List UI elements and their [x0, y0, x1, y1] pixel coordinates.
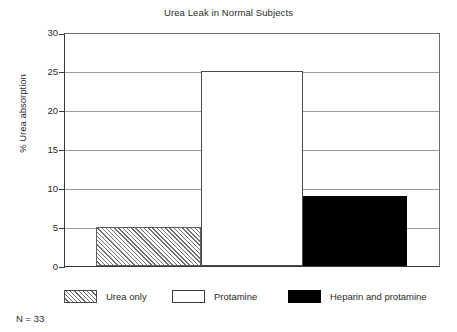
- legend-item-heparin-and-protamine: Heparin and protamine: [288, 287, 427, 305]
- legend-item-protamine: Protamine: [172, 287, 257, 305]
- y-tick-mark-30: [59, 34, 65, 35]
- chart-title: Urea Leak in Normal Subjects: [0, 7, 457, 18]
- legend-label-urea-only: Urea only: [106, 291, 147, 302]
- bar-urea-only: [96, 227, 201, 266]
- y-axis-title: % Urea absorption: [17, 44, 28, 184]
- y-tick-label-30: 30: [12, 28, 58, 38]
- legend-label-protamine: Protamine: [214, 291, 257, 302]
- bar-protamine: [201, 71, 303, 266]
- chart-legend: Urea only Protamine Heparin and protamin…: [0, 287, 457, 307]
- y-tick-label-10: 10: [12, 184, 58, 194]
- y-tick-mark-10: [59, 189, 65, 190]
- legend-item-urea-only: Urea only: [64, 287, 147, 305]
- y-tick-mark-5: [59, 228, 65, 229]
- y-tick-label-0: 0: [12, 262, 58, 272]
- legend-label-heparin-and-protamine: Heparin and protamine: [330, 291, 427, 302]
- legend-swatch-white-icon: [172, 290, 205, 303]
- bar-heparin-and-protamine: [303, 196, 407, 266]
- y-tick-mark-0: [59, 267, 65, 268]
- y-tick-mark-25: [59, 72, 65, 73]
- sample-size-footnote: N = 33: [16, 313, 44, 324]
- legend-swatch-black-icon: [288, 290, 321, 303]
- y-tick-label-5: 5: [12, 223, 58, 233]
- plot-area: [64, 33, 440, 267]
- legend-swatch-hatched-icon: [64, 290, 97, 303]
- chart-figure: Urea Leak in Normal Subjects 30 25 20 15…: [0, 0, 457, 332]
- y-tick-mark-15: [59, 150, 65, 151]
- y-tick-mark-20: [59, 111, 65, 112]
